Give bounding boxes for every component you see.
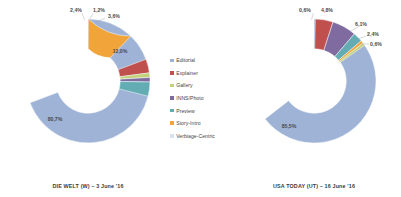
legend-label-inns-photo: INNS/Photo [176, 95, 203, 101]
donut-left-svg: 2,4% 1,2% 3,6% 12,0% 80,7% [13, 6, 163, 156]
legend-swatch-gallery-icon [170, 84, 174, 88]
legend-item-inns-photo[interactable]: INNS/Photo [170, 92, 230, 105]
donut-right-label-editorial: 85,5% [282, 123, 297, 129]
donut-chart-usa-today: 0,6% 4,8% 6,1% 2,4% 0,6% 85,5% USA TODAY… [228, 0, 400, 197]
legend-label-verbiage-centric: Verbiage-Centric [176, 133, 215, 139]
legend-swatch-story-intro-icon [170, 121, 174, 125]
donut-right-svg: 0,6% 4,8% 6,1% 2,4% 0,6% 85,5% [239, 6, 389, 156]
donut-left-label-preview: 3,6% [108, 13, 120, 19]
donut-left-label-gallery: 1,2% [93, 7, 105, 13]
legend-label-preview: Preview [176, 108, 194, 114]
legend-label-gallery: Gallery [176, 82, 192, 88]
donut-left-plot-area: 2,4% 1,2% 3,6% 12,0% 80,7% [13, 6, 163, 156]
legend-swatch-explainer-icon [170, 71, 174, 75]
donut-right-plot-area: 0,6% 4,8% 6,1% 2,4% 0,6% 85,5% [239, 6, 389, 156]
legend-item-explainer[interactable]: Explainer [170, 67, 230, 80]
donut-right-caption: USA TODAY (UT) – 16 June '16 [228, 183, 400, 189]
donut-left-label-story-intro: 12,0% [113, 48, 128, 54]
donut-right-label-preview: 2,4% [367, 31, 379, 37]
legend-label-story-intro: Story-Intro [176, 120, 200, 126]
donut-right-label-inns-photo: 6,1% [355, 21, 367, 27]
legend-swatch-verbiage-centric-icon [170, 134, 174, 138]
legend-label-explainer: Explainer [176, 70, 198, 76]
legend-swatch-preview-icon [170, 109, 174, 113]
legend-item-preview[interactable]: Preview [170, 104, 230, 117]
donut-left-caption: DIE WELT (W) – 3 June '16 [2, 183, 174, 189]
legend-swatch-editorial-icon [170, 59, 174, 63]
dual-donut-chart-figure: 2,4% 1,2% 3,6% 12,0% 80,7% DIE WELT (W) … [0, 0, 401, 197]
legend-swatch-inns-photo-icon [170, 96, 174, 100]
legend-item-verbiage-centric[interactable]: Verbiage-Centric [170, 130, 230, 143]
legend-label-editorial: Editorial [176, 57, 195, 63]
donut-left-label-explainer: 2,4% [70, 7, 82, 13]
donut-left-label-editorial: 80,7% [48, 116, 63, 122]
legend-item-gallery[interactable]: Gallery [170, 79, 230, 92]
chart-legend: Editorial Explainer Gallery INNS/Photo P… [170, 54, 230, 142]
legend-item-story-intro[interactable]: Story-Intro [170, 117, 230, 130]
donut-right-label-story-intro: 0,6% [370, 41, 382, 47]
donut-right-label-explainer: 4,8% [321, 7, 333, 13]
legend-item-editorial[interactable]: Editorial [170, 54, 230, 67]
donut-chart-die-welt: 2,4% 1,2% 3,6% 12,0% 80,7% DIE WELT (W) … [2, 0, 174, 197]
donut-right-label-editorial-sliver: 0,6% [299, 7, 311, 13]
